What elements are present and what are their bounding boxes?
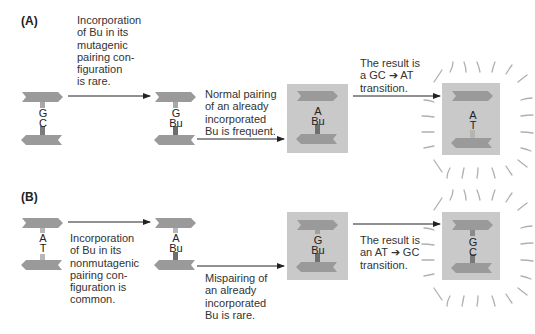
panel-b-result-caption: The result is an AT ➔ GC transition. bbox=[360, 234, 420, 271]
base-bottom: T bbox=[28, 243, 58, 254]
base-bottom: Bu bbox=[303, 116, 333, 127]
base-bottom: T bbox=[458, 120, 488, 131]
base-bottom: C bbox=[458, 247, 488, 258]
base-bottom: Bu bbox=[161, 243, 191, 254]
panel-b-step2-caption: Mispairing of an already incorporated Bu… bbox=[205, 272, 267, 321]
base-bottom: Bu bbox=[303, 245, 333, 256]
base-bottom: C bbox=[28, 118, 58, 129]
base-bottom: Bu bbox=[161, 118, 191, 129]
panel-b-label: (B) bbox=[21, 190, 38, 204]
panel-b-step1-caption: Incorporation of Bu in its nonmutagenic … bbox=[70, 232, 139, 306]
